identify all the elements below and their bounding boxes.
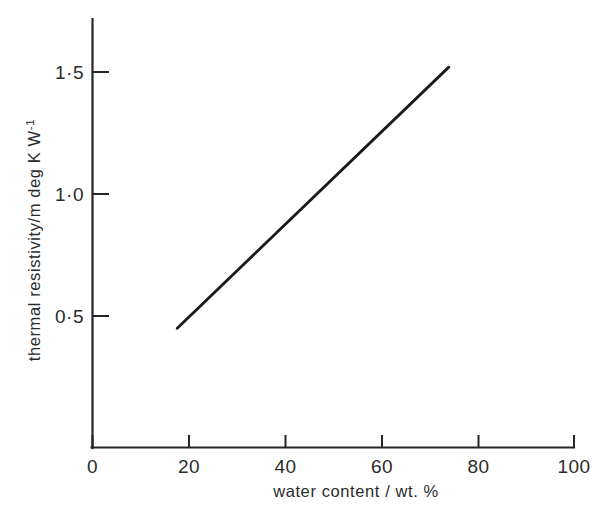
y-axis-ticks xyxy=(93,72,109,316)
figure-root: 0 20 40 60 80 100 0·5 1·0 1·5 water cont… xyxy=(0,0,613,509)
x-axis-title: water content / wt. % xyxy=(272,482,439,500)
y-axis-title-main: thermal resistivity/m deg K W xyxy=(25,130,43,361)
y-tick-label-0p5: 0·5 xyxy=(55,306,84,327)
x-tick-label-40: 40 xyxy=(274,456,296,477)
y-axis-title-exponent: -1 xyxy=(24,119,36,130)
x-tick-label-80: 80 xyxy=(467,456,489,477)
y-axis-tick-labels: 0·5 1·0 1·5 xyxy=(55,62,84,327)
data-series-group xyxy=(177,67,449,328)
x-axis-ticks xyxy=(93,435,575,447)
x-tick-label-100: 100 xyxy=(557,456,590,477)
y-axis-title: thermal resistivity/m deg K W-1 xyxy=(24,119,43,361)
x-tick-label-20: 20 xyxy=(178,456,200,477)
axes-spines xyxy=(92,19,575,448)
x-tick-label-0: 0 xyxy=(87,456,98,477)
x-axis-tick-labels: 0 20 40 60 80 100 xyxy=(87,456,591,477)
data-line-thermal-resistivity xyxy=(177,67,449,328)
line-chart: 0 20 40 60 80 100 0·5 1·0 1·5 water cont… xyxy=(0,0,613,509)
x-tick-label-60: 60 xyxy=(371,456,393,477)
y-tick-label-1p5: 1·5 xyxy=(55,62,84,83)
svg-text:thermal resistivity/m deg K W: thermal resistivity/m deg K W-1 xyxy=(24,119,43,361)
y-tick-label-1p0: 1·0 xyxy=(55,184,84,205)
